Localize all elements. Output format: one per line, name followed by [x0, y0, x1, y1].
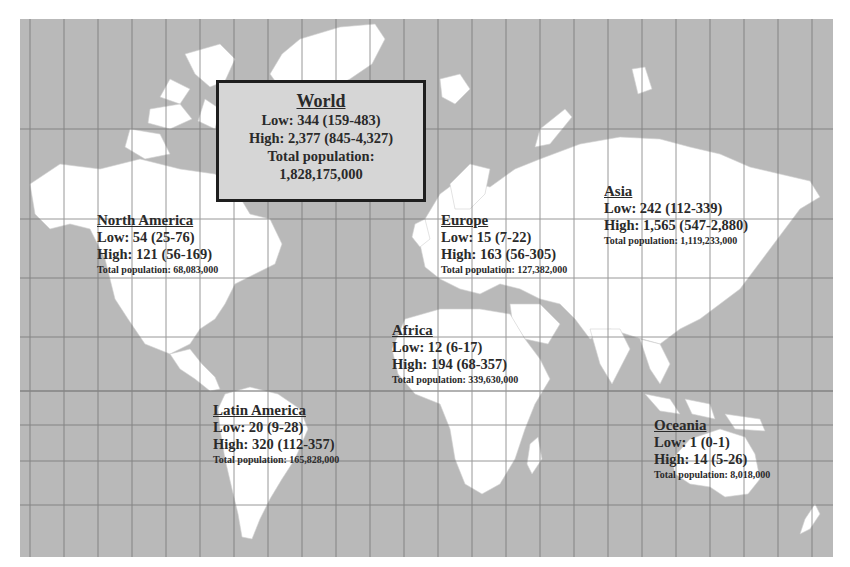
region-label-north-america: North America Low: 54 (25-76) High: 121 … [97, 212, 218, 276]
region-low: Low: 15 (7-22) [441, 229, 567, 246]
region-low: Low: 242 (112-339) [604, 200, 748, 217]
region-low: Low: 1 (0-1) [654, 434, 770, 451]
region-label-latin-america: Latin America Low: 20 (9-28) High: 320 (… [213, 402, 339, 466]
region-name: North America [97, 212, 218, 229]
region-high: High: 14 (5-26) [654, 451, 770, 468]
region-high: High: 320 (112-357) [213, 436, 339, 453]
region-low: Low: 54 (25-76) [97, 229, 218, 246]
world-title: World [219, 91, 423, 111]
region-label-oceania: Oceania Low: 1 (0-1) High: 14 (5-26) Tot… [654, 417, 770, 481]
world-pop-label: Total population: [219, 147, 423, 165]
world-low: Low: 344 (159-483) [219, 111, 423, 129]
region-high: High: 121 (56-169) [97, 246, 218, 263]
region-name: Latin America [213, 402, 339, 419]
region-pop: Total population: 8,018,000 [654, 468, 770, 481]
world-high: High: 2,377 (845-4,327) [219, 129, 423, 147]
region-high: High: 1,565 (547-2,880) [604, 217, 748, 234]
world-summary-box: World Low: 344 (159-483) High: 2,377 (84… [216, 80, 426, 202]
world-pop-value: 1,828,175,000 [219, 165, 423, 183]
region-name: Africa [392, 322, 518, 339]
region-name: Europe [441, 212, 567, 229]
new-zealand-shape [800, 504, 820, 534]
region-high: High: 194 (68-357) [392, 356, 518, 373]
region-name: Asia [604, 183, 748, 200]
region-pop: Total population: 1,119,233,000 [604, 234, 748, 247]
region-pop: Total population: 165,828,000 [213, 453, 339, 466]
novaya-zemlya-shape [535, 109, 572, 147]
region-pop: Total population: 127,382,000 [441, 263, 567, 276]
region-label-africa: Africa Low: 12 (6-17) High: 194 (68-357)… [392, 322, 518, 386]
central-america-shape [170, 349, 220, 391]
region-pop: Total population: 339,630,000 [392, 373, 518, 386]
se-asia-shape [640, 339, 670, 384]
region-label-asia: Asia Low: 242 (112-339) High: 1,565 (547… [604, 183, 748, 247]
region-label-europe: Europe Low: 15 (7-22) High: 163 (56-305)… [441, 212, 567, 276]
region-name: Oceania [654, 417, 770, 434]
region-low: Low: 12 (6-17) [392, 339, 518, 356]
svalbard-shape [440, 74, 470, 104]
region-low: Low: 20 (9-28) [213, 419, 339, 436]
region-high: High: 163 (56-305) [441, 246, 567, 263]
region-pop: Total population: 68,083,000 [97, 263, 218, 276]
